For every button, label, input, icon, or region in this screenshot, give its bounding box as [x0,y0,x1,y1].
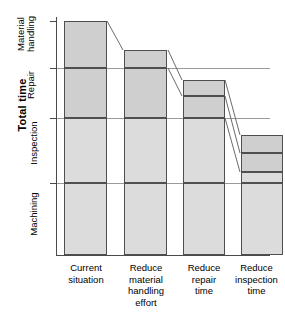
y-band-label-repair: Repair [24,60,38,110]
y-axis-tick-top [50,21,56,22]
bar-segment-inspection [124,118,167,183]
y-axis-tick-material-handling [50,68,56,69]
band-label-text: Inspection [29,121,40,164]
band-label-text: Repair [26,71,37,99]
bar-segment-inspection [183,118,225,183]
band-label-text: Materialhandling [16,16,37,52]
bar-segment-repair [241,153,283,172]
y-axis-line [56,17,57,256]
bar-segment-material-handling [183,80,225,96]
bar-segment-machining [183,183,225,255]
bar-reduce-material-handling-effort[interactable] [124,50,167,255]
y-axis-tick-inspection [50,183,56,184]
y-band-label-machining: Machining [27,180,41,248]
bar-segment-machining [124,183,167,255]
band-label-text: Machining [29,192,40,235]
bar-reduce-repair-time[interactable] [183,80,225,255]
bar-current-situation[interactable] [64,21,107,255]
bar-segment-repair [183,96,225,118]
x-axis-label-reduce-inspection-time: Reduce inspection time [228,262,285,297]
bar-segment-inspection [64,118,107,183]
y-axis-tick-repair [50,118,56,119]
y-band-label-inspection: Inspection [27,109,41,177]
bar-segment-repair [124,68,167,118]
x-axis-label-reduce-material-handling-effort: Reduce material handling effort [115,262,177,308]
bar-segment-material-handling [124,50,167,68]
bar-segment-machining [241,183,283,255]
x-axis-label-reduce-repair-time: Reduce repair time [175,262,233,297]
bar-reduce-inspection-time[interactable] [241,135,283,255]
bar-segment-material-handling [241,135,283,153]
x-axis-line [56,255,270,256]
x-axis-label-current-situation: Current situation [56,262,116,285]
bar-segment-repair [64,68,107,118]
y-band-label-material-handling: Materialhandling [13,11,39,57]
chart-container: Total time Materialhandling Repair Inspe… [0,0,285,319]
bar-segment-material-handling [64,21,107,68]
bar-segment-machining [64,183,107,255]
bar-segment-inspection [241,172,283,183]
